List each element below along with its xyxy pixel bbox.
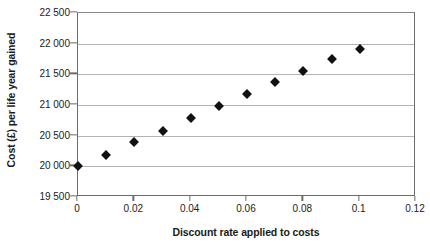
data-point-marker [129, 137, 139, 147]
plot-area [77, 12, 415, 196]
x-axis-tick-mark [414, 196, 415, 201]
y-axis-tick-labels: 19 50020 00020 50021 00021 50022 00022 5… [22, 12, 74, 196]
data-point-marker [327, 54, 337, 64]
x-axis-tick-label: 0.12 [405, 203, 424, 214]
x-axis-tick-marks [77, 196, 415, 201]
x-axis-tick-mark [302, 196, 303, 201]
data-point-marker [186, 113, 196, 123]
y-axis-tick-label: 22 000 [39, 37, 70, 48]
x-axis-tick-mark [245, 196, 246, 201]
gridline [78, 74, 414, 75]
y-axis-tick-label: 20 500 [39, 129, 70, 140]
x-axis-tick-label: 0.04 [180, 203, 199, 214]
data-point-marker [242, 89, 252, 99]
scatter-chart-figure: Cost (£) per life year gained 19 50020 0… [0, 0, 430, 251]
data-point-marker [101, 150, 111, 160]
y-axis-tick-label: 21 000 [39, 99, 70, 110]
y-axis-tick-mark [70, 103, 77, 104]
x-axis-tick-mark [358, 196, 359, 201]
x-axis-tick-label: 0.1 [352, 203, 366, 214]
x-axis-tick-label: 0.08 [293, 203, 312, 214]
x-axis-tick-mark [189, 196, 190, 201]
x-axis-tick-label: 0.02 [124, 203, 143, 214]
y-axis-tick-label: 20 000 [39, 160, 70, 171]
y-axis-tick-label: 19 500 [39, 191, 70, 202]
y-axis-tick-label: 22 500 [39, 7, 70, 18]
x-axis-tick-label: 0 [74, 203, 80, 214]
x-axis-tick-mark [133, 196, 134, 201]
y-axis-tick-mark [70, 11, 77, 12]
y-axis-tick-label: 21 500 [39, 68, 70, 79]
gridline [78, 105, 414, 106]
x-axis-tick-label: 0.06 [236, 203, 255, 214]
gridline [78, 136, 414, 137]
x-axis-title: Discount rate applied to costs [77, 226, 415, 238]
y-axis-tick-mark [70, 134, 77, 135]
gridline [78, 166, 414, 167]
data-point-marker [214, 101, 224, 111]
x-axis-tick-mark [76, 196, 77, 201]
data-point-marker [158, 126, 168, 136]
y-axis-tick-mark [70, 73, 77, 74]
data-point-marker [270, 77, 280, 87]
y-axis-title: Cost (£) per life year gained [0, 0, 22, 200]
gridline [78, 44, 414, 45]
data-point-marker [355, 44, 365, 54]
x-axis-tick-labels: 00.020.040.060.080.10.12 [77, 203, 415, 219]
y-axis-tick-mark [70, 42, 77, 43]
y-axis-title-label: Cost (£) per life year gained [5, 33, 17, 168]
